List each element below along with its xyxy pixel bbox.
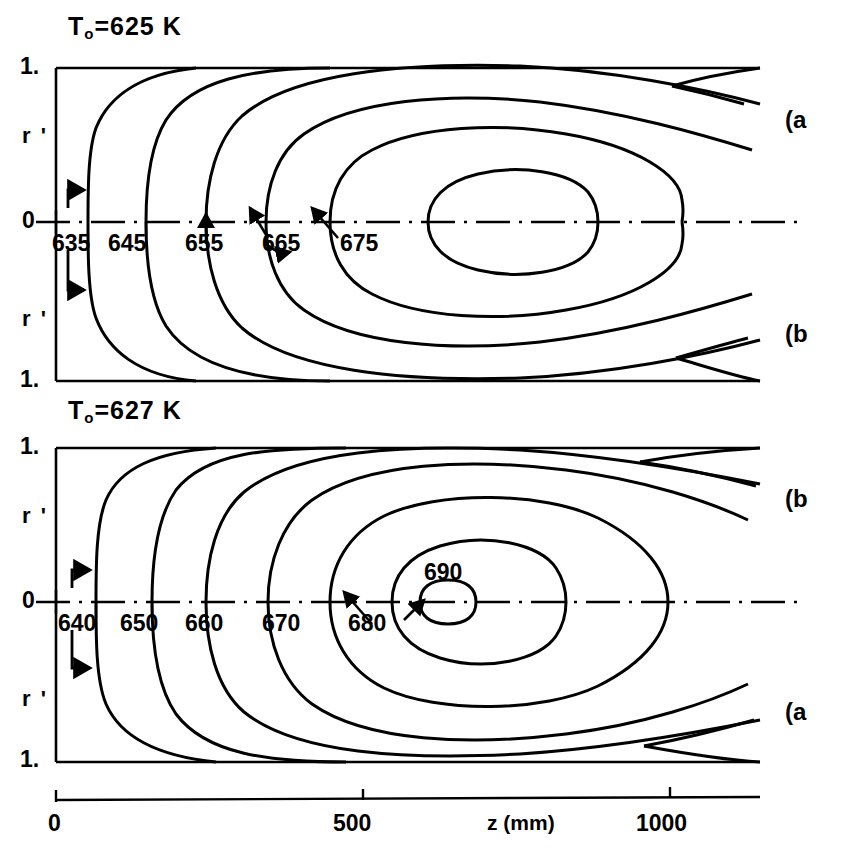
panel-bottom-exit-streak-upper bbox=[640, 448, 760, 462]
panel-bottom-contour-670-lower bbox=[268, 602, 748, 740]
panel-bottom-contour-inner-lower bbox=[392, 602, 566, 664]
panel-top-inlet-arrow-up bbox=[68, 190, 84, 208]
panel-bottom-contour-690-upper bbox=[420, 580, 476, 602]
panel-top-contour-635-upper bbox=[88, 68, 196, 222]
panel-bottom-leader-680-left bbox=[344, 592, 372, 624]
panel-bottom-contour-650-lower bbox=[152, 602, 346, 762]
panel-bottom-contour-inner-upper bbox=[392, 540, 566, 602]
contour-plot-canvas bbox=[0, 0, 850, 855]
panel-bottom-contour-690-lower bbox=[420, 602, 476, 624]
panel-top-inlet-arrow-down bbox=[68, 250, 84, 290]
panel-bottom-contour-670-upper bbox=[268, 464, 748, 602]
panel-top-exit-streak-upper bbox=[672, 68, 760, 86]
panel-bottom-contour-680-lower bbox=[330, 602, 668, 707]
panel-top-contour-645-upper bbox=[146, 68, 330, 222]
panel-top-contour-675-upper bbox=[330, 127, 683, 222]
panel-bottom-inlet-arrow-up bbox=[72, 570, 90, 588]
panel-top-contour-core-lower bbox=[428, 222, 598, 274]
panel-top-contour-655-lower bbox=[206, 222, 760, 379]
x-axis-group bbox=[56, 787, 760, 802]
panel-bottom-contour-650-upper bbox=[152, 448, 346, 602]
panel-top-contour-core-upper bbox=[428, 170, 598, 222]
panel-top-contour-675-lower bbox=[330, 222, 683, 317]
panel-top-contour-665-upper bbox=[266, 98, 752, 222]
panel-top-exit-streak-upper2 bbox=[672, 86, 744, 104]
panel-bottom-exit-streak-lower2 bbox=[644, 720, 754, 746]
panel-bottom-exit-streak-lower bbox=[644, 746, 760, 762]
panel-top-contour-635-lower bbox=[88, 222, 196, 381]
panel-top-contour-655-upper bbox=[206, 65, 760, 222]
figure-root: To=625 K 1. r ' 0 r ' 1. 635 645 655 665… bbox=[0, 0, 850, 855]
panel-bottom-contour-640-lower bbox=[96, 602, 216, 762]
panel-bottom-contour-680-upper bbox=[330, 497, 668, 602]
panel-bottom-inlet-arrow-down bbox=[72, 630, 90, 668]
panel-top-exit-streak-lower bbox=[676, 358, 760, 381]
x-axis-line bbox=[56, 797, 760, 800]
panel-bottom-group bbox=[36, 448, 800, 762]
panel-top-group bbox=[36, 65, 800, 381]
panel-top-contour-665-lower bbox=[266, 222, 752, 346]
panel-top-exit-streak-lower2 bbox=[676, 338, 748, 358]
panel-bottom-exit-streak-upper2 bbox=[640, 462, 756, 486]
